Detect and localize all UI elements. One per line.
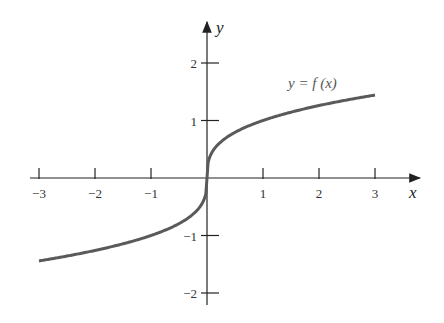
x-tick-label: −2 [88, 186, 102, 201]
function-label: y = f (x) [286, 75, 337, 92]
x-tick-label: 1 [260, 186, 267, 201]
y-tick-label: −2 [183, 286, 197, 301]
y-axis-label: y [214, 18, 224, 37]
x-tick-label: 2 [316, 186, 323, 201]
y-tick-label: −1 [183, 229, 197, 244]
x-tick-label: 3 [372, 186, 379, 201]
y-tick-label: 1 [191, 114, 198, 129]
chart: −3−2−1123−2−112 x y y = f (x) [0, 0, 444, 323]
x-tick-label: −3 [32, 186, 46, 201]
x-axis-label: x [408, 183, 417, 202]
y-tick-label: 2 [191, 56, 198, 71]
x-tick-label: −1 [144, 186, 158, 201]
